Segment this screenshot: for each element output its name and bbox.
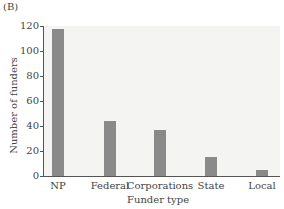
y-tick-label: 100 <box>9 45 39 56</box>
y-tick-mark <box>40 151 43 152</box>
bar-federal <box>104 121 116 176</box>
bar-corporations <box>154 130 166 176</box>
y-tick-mark <box>40 76 43 77</box>
panel-label: (B) <box>3 1 18 12</box>
y-tick-mark <box>40 51 43 52</box>
bar-state <box>205 157 217 176</box>
y-tick-mark <box>40 101 43 102</box>
x-tick-label: Federal <box>91 180 130 191</box>
y-tick-mark <box>40 26 43 27</box>
x-tick-label: State <box>198 180 225 191</box>
x-axis-line <box>43 176 280 177</box>
y-tick-mark <box>40 176 43 177</box>
y-tick-label: 0 <box>9 170 39 181</box>
x-tick-label: Corporations <box>127 180 193 191</box>
x-tick-label: Local <box>248 180 275 191</box>
y-axis-line <box>43 26 44 177</box>
y-axis-title: Number of funders <box>8 56 19 156</box>
bar-local <box>256 170 268 176</box>
y-tick-mark <box>40 126 43 127</box>
x-axis-title: Funder type <box>127 194 189 205</box>
y-tick-label: 120 <box>9 20 39 31</box>
bar-np <box>52 29 64 177</box>
x-tick-label: NP <box>50 180 65 191</box>
